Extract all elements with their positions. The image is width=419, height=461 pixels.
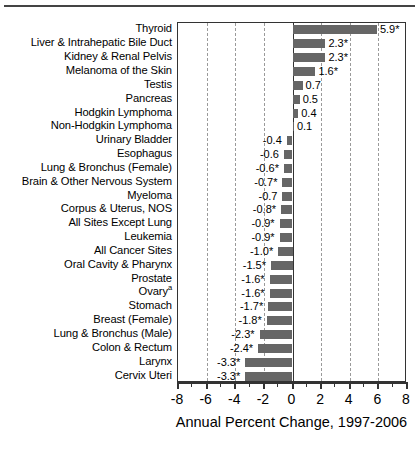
x-tick-major [377,382,379,389]
bar [293,122,294,131]
category-label: Lung & Bronchus (Female) [41,160,172,175]
category-label: Corpus & Uterus, NOS [61,201,172,216]
chart-body: ThyroidLiver & Intrahepatic Bile DuctKid… [0,22,419,382]
category-label: Oral Cavity & Pharynx [64,257,172,272]
x-tick-label: 6 [373,391,381,407]
bar-value-label: 5.9* [380,24,400,35]
bar-value-label: -1.5* [243,260,266,271]
category-label: Cervix Uteri [115,368,172,383]
category-label: Pancreas [126,91,172,106]
category-label: Ovarya [139,284,172,299]
x-tick-label: 2 [316,391,324,407]
x-tick-major [320,382,322,389]
bar [245,372,292,381]
bar [287,136,293,145]
x-tick-label: -2 [257,391,269,407]
bar [245,358,292,367]
x-tick-label: 0 [288,391,296,407]
bar-value-label: 0.1 [297,121,312,132]
header-divider [4,5,415,7]
x-tick-minor [277,382,278,387]
category-label: Leukemia [124,229,172,244]
bar-value-label: -0.7* [254,177,277,188]
chart-figure: ThyroidLiver & Intrahepatic Bile DuctKid… [0,0,419,461]
x-tick-label: -4 [228,391,240,407]
plot-area: 5.9*2.3*2.3*1.6*0.70.50.40.1-0.4-0.6-0.6… [177,22,406,382]
bar-value-label: 0.5 [303,94,318,105]
category-label: Liver & Intrahepatic Bile Duct [31,35,172,50]
bar-value-label: 0.7 [306,80,321,91]
x-tick-major [234,382,236,389]
bar-value-label: -0.6 [260,149,279,160]
bar-value-label: -0.9* [251,218,274,229]
category-label: Esophagus [117,146,172,161]
bar [293,53,326,62]
x-tick-minor [392,382,393,387]
category-label: Lung & Bronchus (Male) [54,326,172,341]
x-tick-minor [306,382,307,387]
bar [280,219,293,228]
x-tick-label: -8 [171,391,183,407]
x-tick-label: -6 [199,391,211,407]
category-label: Myeloma [127,188,172,203]
x-tick-major [263,382,265,389]
category-label: Testis [144,77,172,92]
bar [293,25,377,34]
x-axis-title: Annual Percent Change, 1997-2006 [176,414,407,430]
bar [293,67,316,76]
category-label: Thyroid [135,21,172,36]
category-label: Hodgkin Lymphoma [75,105,172,120]
bar-value-label: -0.9* [251,232,274,243]
category-label: Colon & Rectum [92,340,172,355]
bar [282,178,292,187]
bar-series: 5.9*2.3*2.3*1.6*0.70.50.40.1-0.4-0.6-0.6… [178,23,405,381]
bar [293,95,300,104]
x-tick-label: 4 [345,391,353,407]
bar [270,289,293,298]
bar [267,316,293,325]
x-tick-major [406,382,408,389]
category-label: All Sites Except Lung [68,215,172,230]
bar [293,81,303,90]
bar-value-label: 2.3* [328,52,348,63]
bar [278,247,292,256]
category-label: All Cancer Sites [94,243,172,258]
bar-value-label: -2.4* [230,343,253,354]
x-tick-major [292,382,294,389]
x-tick-major [206,382,208,389]
bar [260,330,293,339]
x-tick-minor [249,382,250,387]
x-tick-minor [334,382,335,387]
x-tick-minor [191,382,192,387]
bar-value-label: -1.6* [241,274,264,285]
category-label: Brain & Other Nervous System [22,174,172,189]
category-label: Prostate [131,271,172,286]
bar [268,302,292,311]
bar-value-label: -1.0* [250,246,273,257]
bar [280,233,293,242]
bar-value-label: -0.8* [253,204,276,215]
bar-value-label: 0.4 [301,108,316,119]
category-label: Kidney & Renal Pelvis [64,49,172,64]
bar-value-label: -3.3* [217,357,240,368]
x-tick-label: 8 [402,391,410,407]
bar [281,205,292,214]
category-label: Melanoma of the Skin [66,63,172,78]
x-axis: -8-6-4-202468 Annual Percent Change, 199… [177,382,406,461]
category-label: Urinary Bladder [96,132,172,147]
bar [258,344,292,353]
bar-value-label: 2.3* [328,38,348,49]
bar [282,192,292,201]
category-label: Non-Hodgkin Lymphoma [51,118,172,133]
bar-value-label: -0.4 [263,135,282,146]
x-tick-minor [220,382,221,387]
x-tick-minor [363,382,364,387]
bar [293,109,299,118]
bar [271,261,292,270]
bar [284,164,293,173]
bar-value-label: -2.3* [231,329,254,340]
bar [293,39,326,48]
bar [284,150,293,159]
x-tick-major [177,382,179,389]
category-label: Stomach [129,298,172,313]
